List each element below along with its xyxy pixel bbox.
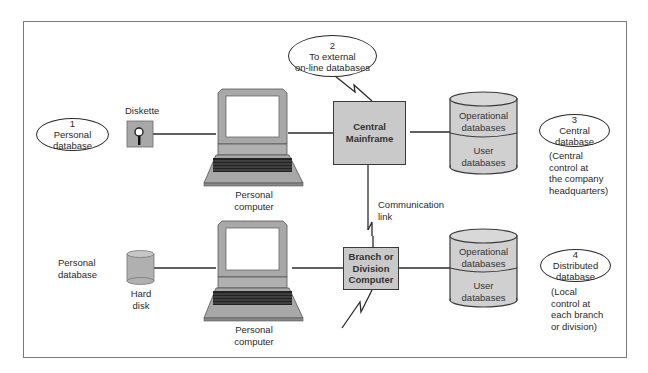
label-line: Operational [450, 110, 517, 122]
ellipse-number: 3 [572, 114, 577, 125]
box-line: Central [353, 121, 386, 133]
hard-disk-icon [127, 251, 154, 285]
ellipse-line: Distributed [553, 260, 598, 271]
note-line: headquarters) [549, 185, 608, 197]
note-line: (Local [551, 286, 603, 298]
label-line: Operational [450, 246, 517, 258]
central-user-databases-label: User databases [450, 145, 517, 168]
label-line: databases [450, 258, 517, 270]
personal-database-1-ellipse: 1 Personal database [36, 118, 109, 151]
box-line: Division [353, 263, 390, 275]
ellipse-number: 1 [70, 118, 75, 129]
label-line: User [450, 145, 517, 157]
note-line: control at [551, 298, 603, 310]
note-line: control at [549, 162, 608, 174]
label-line: database [58, 269, 97, 281]
hard-disk-label: Hard disk [124, 288, 158, 311]
ellipse-line: on-line databases [295, 62, 370, 73]
central-mainframe-box: Central Mainframe [333, 101, 406, 165]
box-line: Branch or [349, 251, 394, 263]
label-line: databases [450, 122, 517, 134]
label-line: Hard [124, 288, 158, 300]
label-line: User [450, 280, 517, 292]
communication-link-label: Communication link [378, 199, 444, 222]
branch-division-computer-box: Branch or Division Computer [343, 247, 399, 290]
personal-computer-bottom-label: Personal computer [222, 324, 286, 347]
ellipse-line: To external [309, 51, 355, 62]
ellipse-line: Central [559, 125, 590, 136]
diskette-icon [127, 121, 153, 147]
label-line: Communication [378, 199, 444, 211]
distributed-database-4-ellipse: 4 Distributed database [540, 249, 611, 282]
box-line: Computer [349, 274, 394, 286]
label-line: Personal [222, 189, 286, 201]
label-line: computer [222, 201, 286, 213]
diskette-label: Diskette [125, 105, 159, 117]
label-line: databases [450, 292, 517, 304]
note-line: the company [549, 173, 608, 185]
external-databases-2-ellipse: 2 To external on-line databases [288, 35, 377, 77]
personal-computer-top-icon [204, 89, 303, 186]
ellipse-number: 4 [573, 249, 578, 260]
ellipse-line: database [556, 271, 595, 282]
label-line: Personal [222, 324, 286, 336]
ellipse-line: database [555, 136, 594, 147]
central-database-3-ellipse: 3 Central database [539, 114, 610, 147]
note-line: or division) [551, 321, 603, 333]
ellipse-line: Personal [54, 129, 92, 140]
personal-database-label: Personal database [58, 257, 97, 280]
note-line: (Central [549, 150, 608, 162]
label-line: Personal [58, 257, 97, 269]
label-line: disk [124, 300, 158, 312]
label-line: databases [450, 157, 517, 169]
central-control-note: (Central control at the company headquar… [549, 150, 608, 196]
label-line: link [378, 211, 444, 223]
personal-computer-top-label: Personal computer [222, 189, 286, 212]
note-line: each branch [551, 309, 603, 321]
ellipse-line: database [53, 140, 92, 151]
local-control-note: (Local control at each branch or divisio… [551, 286, 603, 332]
personal-computer-bottom-icon [204, 221, 303, 321]
branch-user-databases-label: User databases [450, 280, 517, 303]
ellipse-number: 2 [330, 40, 335, 51]
branch-operational-databases-label: Operational databases [450, 246, 517, 269]
central-operational-databases-label: Operational databases [450, 110, 517, 133]
label-line: computer [222, 336, 286, 348]
box-line: Mainframe [346, 133, 394, 145]
